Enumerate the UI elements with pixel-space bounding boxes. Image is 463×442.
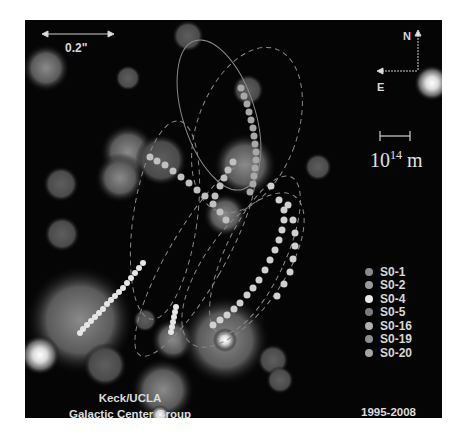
legend-dot-icon xyxy=(365,308,373,316)
legend-item: S0-4 xyxy=(365,292,412,306)
angular-scale-label: 0.2" xyxy=(65,41,87,55)
compass-east-label: E xyxy=(377,81,384,93)
legend-label: S0-16 xyxy=(380,319,412,333)
scale-unit: m xyxy=(407,149,423,171)
legend-dot-icon xyxy=(365,322,373,330)
legend-label: S0-1 xyxy=(380,265,405,279)
scale-base: 10 xyxy=(370,149,390,171)
credit-line-1: Keck/UCLA xyxy=(25,390,235,406)
physical-scale-label: 1014 m xyxy=(370,148,423,172)
legend-label: S0-19 xyxy=(380,332,412,346)
legend-label: S0-2 xyxy=(380,278,405,292)
legend-label: S0-4 xyxy=(380,292,405,306)
legend-dot-icon xyxy=(365,268,373,276)
scale-exponent: 14 xyxy=(390,148,402,162)
legend-item: S0-1 xyxy=(365,265,412,279)
legend-item: S0-2 xyxy=(365,279,412,293)
credit-text: Keck/UCLA Galactic Center Group xyxy=(25,390,235,418)
star-legend: S0-1 S0-2 S0-4 S0-5 S0-16 S0-19 S0-20 xyxy=(365,265,412,360)
legend-dot-icon xyxy=(365,295,373,303)
legend-item: S0-19 xyxy=(365,333,412,347)
galactic-center-image: 0.2" N E 1014 m S0-1 S0-2 S0-4 S0-5 S0-1… xyxy=(25,20,442,418)
credit-line-2: Galactic Center Group xyxy=(25,406,235,418)
legend-label: S0-5 xyxy=(380,305,405,319)
legend-item: S0-16 xyxy=(365,319,412,333)
year-range: 1995-2008 xyxy=(361,406,416,418)
legend-item: S0-20 xyxy=(365,346,412,360)
legend-item: S0-5 xyxy=(365,306,412,320)
compass-north-label: N xyxy=(403,30,411,42)
legend-dot-icon xyxy=(365,335,373,343)
legend-dot-icon xyxy=(365,349,373,357)
legend-label: S0-20 xyxy=(380,346,412,360)
legend-dot-icon xyxy=(365,281,373,289)
